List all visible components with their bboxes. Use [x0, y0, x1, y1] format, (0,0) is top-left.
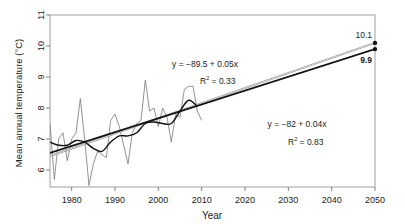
y-axis-title: Mean annual temperature (°C)	[13, 39, 24, 167]
equation-b: y = −82 + 0.04x	[268, 119, 328, 129]
y-tick-label: 11	[36, 10, 46, 19]
x-tick-label: 2040	[322, 195, 342, 205]
y-axis: 67891011	[36, 10, 50, 172]
y-tick-label: 7	[36, 136, 46, 141]
x-tick-label: 1990	[105, 195, 125, 205]
r2-a: R2 = 0.33	[200, 75, 236, 86]
x-tick-label: 2050	[365, 195, 385, 205]
x-axis-title: Year	[202, 210, 223, 221]
y-tick-label: 6	[36, 167, 46, 172]
x-axis: 19801990200020102020203020402050	[62, 187, 385, 205]
observed-series-line	[50, 80, 202, 185]
x-tick-label: 2020	[235, 195, 255, 205]
endpoint-label-a: 10.1	[355, 30, 372, 40]
y-tick-label: 8	[36, 105, 46, 110]
endpoint-label-b: 9.9	[360, 55, 372, 65]
y-tick-label: 10	[36, 41, 46, 51]
temperature-chart: 67891011 1980199020002010202020302040205…	[0, 0, 405, 224]
x-tick-label: 2000	[148, 195, 168, 205]
endpoint-marker-a	[373, 41, 377, 45]
r2-b: R2 = 0.83	[288, 136, 324, 147]
y-tick-label: 9	[36, 74, 46, 79]
endpoint-marker-b	[373, 47, 377, 51]
x-tick-label: 2030	[278, 195, 298, 205]
x-tick-label: 1980	[62, 195, 82, 205]
equation-a: y = −89.5 + 0.05x	[172, 59, 239, 69]
x-tick-label: 2010	[192, 195, 212, 205]
